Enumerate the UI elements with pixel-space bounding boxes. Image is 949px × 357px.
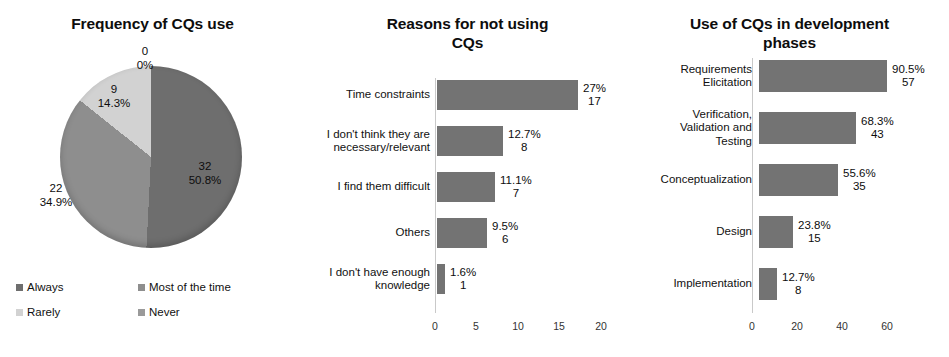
phases-category-label-design: Design [630,225,759,239]
reasons-value-label-3: 9.5% 6 [487,220,518,246]
phases-percent-1: 68.3% [861,115,894,128]
reasons-bar-track-4: 1.6% 1 [437,264,630,294]
phases-cat-0-line-1: Elicitation [703,76,752,88]
reasons-category-label-not-enough-knowledge: I don't have enough knowledge [305,266,437,293]
phases-category-label-verification-validation-testing: Verification, Validation and Testing [630,108,759,149]
reasons-bar-others [437,218,487,248]
reasons-xtick-1: 5 [473,320,479,332]
phases-bar-track-4: 12.7% 8 [759,268,949,300]
reasons-category-label-time-constraints: Time constraints [305,88,437,102]
legend-item-always: Always [16,281,138,293]
legend-swatch-icon-most-of-the-time [138,284,145,291]
reasons-percent-0: 27% [583,82,606,95]
phases-bar-track-1: 68.3% 43 [759,112,949,144]
reasons-count-1: 8 [508,141,541,154]
phases-bar-track-3: 23.8% 15 [759,216,949,248]
phases-percent-0: 90.5% [892,63,925,76]
chart-panel-frequency-of-cqs-use: Frequency of CQs use 0 0% 9 14.3% 22 34.… [0,0,305,357]
reasons-count-4: 1 [450,279,476,292]
phases-cat-2-line-0: Conceptualization [661,173,752,185]
phases-chart-title: Use of CQs in development phases [634,14,945,52]
phases-bar-verification-validation-testing [759,112,856,144]
reasons-cat-4-line-0: I don't have enough [329,266,430,278]
pie-legend: Always Most of the time Rarely Never [16,281,288,318]
reasons-percent-1: 12.7% [508,128,541,141]
reasons-xtick-0: 0 [432,320,438,332]
phases-count-2: 35 [843,180,876,193]
reasons-bar-difficult [437,172,495,202]
reasons-percent-3: 9.5% [492,220,518,233]
phases-value-label-2: 55.6% 35 [838,167,876,193]
reasons-title-line-2: CQs [452,34,484,51]
reasons-percent-4: 1.6% [450,266,476,279]
reasons-cat-1-line-0: I don't think they are [327,128,430,140]
phases-xtick-2: 40 [836,320,848,332]
phases-cat-1-line-1: Validation and [680,121,752,133]
table-row: I don't have enough knowledge 1.6% 1 [305,264,630,294]
phases-cat-1-line-2: Testing [716,135,752,147]
phases-category-label-conceptualization: Conceptualization [630,173,759,187]
pie-data-label-rarely: 9 14.3% [93,83,135,110]
phases-title-line-1: Use of CQs in development [690,15,889,32]
phases-bar-design [759,216,793,248]
reasons-xtick-3: 15 [553,320,565,332]
reasons-bar-not-necessary [437,126,503,156]
phases-count-3: 15 [798,232,831,245]
pie-label-percent-rarely: 14.3% [93,97,135,111]
phases-count-0: 57 [892,76,925,89]
reasons-category-label-difficult: I find them difficult [305,180,437,194]
reasons-bar-track-3: 9.5% 6 [437,218,630,248]
phases-bar-track-2: 55.6% 35 [759,164,949,196]
phases-cat-3-line-0: Design [716,225,752,237]
reasons-count-0: 17 [583,95,606,108]
phases-percent-3: 23.8% [798,219,831,232]
phases-cat-1-line-0: Verification, [693,108,752,120]
pie-label-count-always: 32 [182,160,228,174]
phases-category-label-implementation: Implementation [630,277,759,291]
reasons-bar-time-constraints [437,80,578,110]
legend-item-rarely: Rarely [16,306,138,318]
table-row: Conceptualization 55.6% 35 [630,164,949,196]
phases-title-line-2: phases [763,34,816,51]
pie-slices [60,66,242,248]
table-row: Design 23.8% 15 [630,216,949,248]
phases-cat-4-line-0: Implementation [673,277,752,289]
pie-label-count-most-of-the-time: 22 [33,182,79,196]
reasons-count-3: 6 [492,233,518,246]
reasons-chart-title: Reasons for not using CQs [327,14,608,52]
phases-cat-0-line-0: Requirements [680,63,752,75]
reasons-bar-track-1: 12.7% 8 [437,126,630,156]
reasons-value-label-4: 1.6% 1 [445,266,476,292]
phases-value-label-3: 23.8% 15 [793,219,831,245]
pie-label-percent-never: 0% [125,59,165,73]
legend-label-rarely: Rarely [27,306,60,318]
phases-xtick-3: 60 [881,320,893,332]
reasons-bar-track-0: 27% 17 [437,80,630,110]
legend-label-never: Never [149,306,180,318]
legend-label-most-of-the-time: Most of the time [149,281,231,293]
reasons-value-label-1: 12.7% 8 [503,128,541,154]
pie-label-percent-most-of-the-time: 34.9% [33,196,79,210]
reasons-category-label-others: Others [305,226,437,240]
reasons-bar-track-2: 11.1% 7 [437,172,630,202]
reasons-category-label-not-necessary: I don't think they are necessary/relevan… [305,128,437,155]
legend-swatch-icon-always [16,284,23,291]
reasons-bars-group: Time constraints 27% 17 I don't think th… [305,80,630,308]
reasons-bar-not-enough-knowledge [437,264,445,294]
phases-bar-track-0: 90.5% 57 [759,60,949,92]
reasons-x-axis-ticks: 0 5 10 15 20 [435,320,600,334]
reasons-count-2: 7 [500,187,532,200]
phases-count-4: 8 [782,284,815,297]
phases-bar-requirements-elicitation [759,60,887,92]
phases-bar-conceptualization [759,164,838,196]
reasons-cat-2-line-0: I find them difficult [338,180,430,192]
reasons-cat-0-line-0: Time constraints [346,88,430,100]
chart-panel-use-of-cqs-in-development-phases: Use of CQs in development phases Require… [630,0,949,357]
reasons-value-label-2: 11.1% 7 [495,174,532,200]
pie-label-count-never: 0 [125,45,165,59]
table-row: Implementation 12.7% 8 [630,268,949,300]
reasons-cat-4-line-1: knowledge [375,279,430,291]
pie-data-label-never: 0 0% [125,45,165,72]
table-row: Time constraints 27% 17 [305,80,630,110]
phases-xtick-0: 0 [749,320,755,332]
